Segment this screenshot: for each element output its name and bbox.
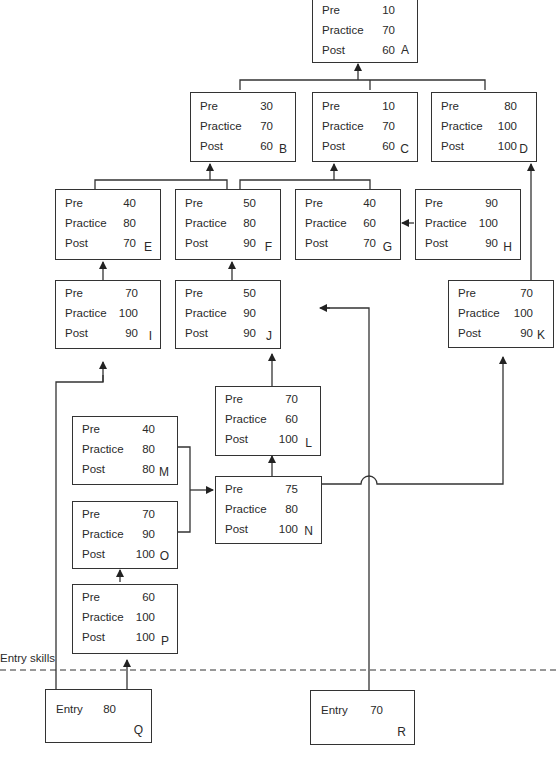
pre-value: 30	[243, 100, 273, 112]
pre-value: 10	[365, 4, 395, 16]
post-label: Post	[458, 327, 481, 339]
post-label: Post	[441, 140, 464, 152]
pre-value: 40	[106, 197, 136, 209]
practice-label: Practice	[65, 307, 107, 319]
node-letter: B	[279, 142, 287, 156]
node-letter: A	[401, 43, 409, 57]
practice-label: Practice	[82, 528, 124, 540]
pre-label: Pre	[322, 4, 340, 16]
practice-value: 70	[243, 120, 273, 132]
pre-label: Pre	[305, 197, 323, 209]
pre-label: Pre	[322, 100, 340, 112]
practice-label: Practice	[200, 120, 242, 132]
practice-label: Practice	[458, 307, 500, 319]
pre-value: 70	[108, 287, 138, 299]
pre-value: 90	[468, 197, 498, 209]
practice-value: 70	[365, 120, 395, 132]
node-I: Pre 70 Practice 100 Post 90 I	[55, 280, 161, 349]
post-value: 90	[108, 327, 138, 339]
practice-value: 80	[268, 503, 298, 515]
practice-value: 60	[346, 217, 376, 229]
post-value: 100	[268, 523, 298, 535]
pre-value: 40	[346, 197, 376, 209]
node-B: Pre 30 Practice 70 Post 60 B	[190, 92, 296, 162]
entry-label: Entry	[321, 704, 348, 716]
node-letter: F	[265, 240, 272, 254]
node-E: Pre 40 Practice 80 Post 70 E	[55, 189, 161, 260]
node-J: Pre 50 Practice 90 Post 90 J	[175, 280, 281, 349]
pre-label: Pre	[82, 591, 100, 603]
pre-label: Pre	[425, 197, 443, 209]
entry-value: 70	[353, 704, 383, 716]
entry-label: Entry	[56, 703, 83, 715]
pre-value: 60	[125, 591, 155, 603]
node-letter: D	[519, 142, 528, 156]
pre-value: 40	[125, 423, 155, 435]
node-A: Pre 10 Practice 70 Post 60 A	[312, 0, 418, 63]
practice-value: 80	[106, 217, 136, 229]
practice-value: 100	[468, 217, 498, 229]
node-N: Pre 75 Practice 80 Post 100 N	[215, 476, 322, 544]
post-value: 70	[346, 237, 376, 249]
node-letter: E	[144, 240, 152, 254]
post-value: 60	[365, 44, 395, 56]
node-D: Pre 80 Practice 100 Post 100 D	[431, 92, 537, 162]
post-value: 90	[226, 237, 256, 249]
post-value: 60	[365, 140, 395, 152]
entry-skills-label: Entry skills	[0, 652, 55, 664]
pre-label: Pre	[185, 197, 203, 209]
practice-label: Practice	[185, 217, 227, 229]
post-label: Post	[82, 631, 105, 643]
pre-value: 80	[487, 100, 517, 112]
node-letter: C	[400, 142, 409, 156]
pre-label: Pre	[65, 287, 83, 299]
node-letter: K	[537, 328, 545, 342]
practice-value: 80	[125, 443, 155, 455]
practice-label: Practice	[82, 611, 124, 623]
post-value: 100	[125, 631, 155, 643]
pre-label: Pre	[441, 100, 459, 112]
post-label: Post	[425, 237, 448, 249]
node-F: Pre 50 Practice 80 Post 90 F	[175, 189, 281, 260]
practice-value: 100	[125, 611, 155, 623]
post-value: 90	[468, 237, 498, 249]
node-G: Pre 40 Practice 60 Post 70 G	[295, 189, 401, 260]
pre-label: Pre	[225, 483, 243, 495]
post-label: Post	[225, 523, 248, 535]
pre-label: Pre	[200, 100, 218, 112]
node-letter: L	[305, 436, 312, 450]
pre-label: Pre	[225, 393, 243, 405]
pre-value: 70	[268, 393, 298, 405]
node-letter: J	[266, 329, 272, 343]
practice-value: 100	[487, 120, 517, 132]
post-value: 80	[125, 463, 155, 475]
pre-label: Pre	[82, 423, 100, 435]
node-letter: O	[160, 549, 169, 563]
post-label: Post	[65, 237, 88, 249]
practice-value: 90	[226, 307, 256, 319]
post-label: Post	[82, 548, 105, 560]
practice-label: Practice	[305, 217, 347, 229]
node-letter: I	[149, 329, 152, 343]
practice-label: Practice	[185, 307, 227, 319]
practice-label: Practice	[65, 217, 107, 229]
post-label: Post	[65, 327, 88, 339]
pre-label: Pre	[458, 287, 476, 299]
node-O: Pre 70 Practice 90 Post 100 O	[72, 501, 178, 569]
node-letter: R	[397, 725, 406, 739]
post-value: 90	[503, 327, 533, 339]
practice-label: Practice	[82, 443, 124, 455]
pre-value: 75	[268, 483, 298, 495]
post-label: Post	[185, 237, 208, 249]
post-value: 90	[226, 327, 256, 339]
node-letter: N	[304, 524, 313, 538]
post-value: 100	[125, 548, 155, 560]
pre-label: Pre	[185, 287, 203, 299]
practice-value: 70	[365, 24, 395, 36]
node-Q: Entry 80 Q	[45, 689, 152, 743]
post-label: Post	[82, 463, 105, 475]
post-value: 100	[487, 140, 517, 152]
node-C: Pre 10 Practice 70 Post 60 C	[312, 92, 418, 162]
node-H: Pre 90 Practice 100 Post 90 H	[415, 189, 521, 260]
practice-value: 100	[108, 307, 138, 319]
